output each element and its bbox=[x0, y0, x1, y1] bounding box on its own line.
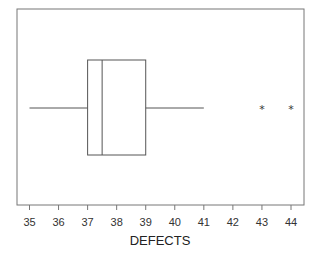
x-tick-label: 42 bbox=[227, 216, 239, 228]
x-tick-label: 37 bbox=[81, 216, 93, 228]
x-axis: 35363738394041424344 bbox=[23, 205, 297, 228]
x-tick-label: 41 bbox=[198, 216, 210, 228]
x-tick-label: 36 bbox=[52, 216, 64, 228]
outlier-marker: * bbox=[259, 103, 265, 116]
x-tick-label: 44 bbox=[285, 216, 297, 228]
x-tick-label: 35 bbox=[23, 216, 35, 228]
x-axis-label: DEFECTS bbox=[130, 233, 191, 248]
boxplot-chart: ** 35363738394041424344 DEFECTS bbox=[0, 0, 316, 254]
x-tick-label: 38 bbox=[111, 216, 123, 228]
x-tick-label: 39 bbox=[140, 216, 152, 228]
x-tick-label: 40 bbox=[169, 216, 181, 228]
x-tick-label: 43 bbox=[256, 216, 268, 228]
outlier-marker: * bbox=[288, 103, 294, 116]
